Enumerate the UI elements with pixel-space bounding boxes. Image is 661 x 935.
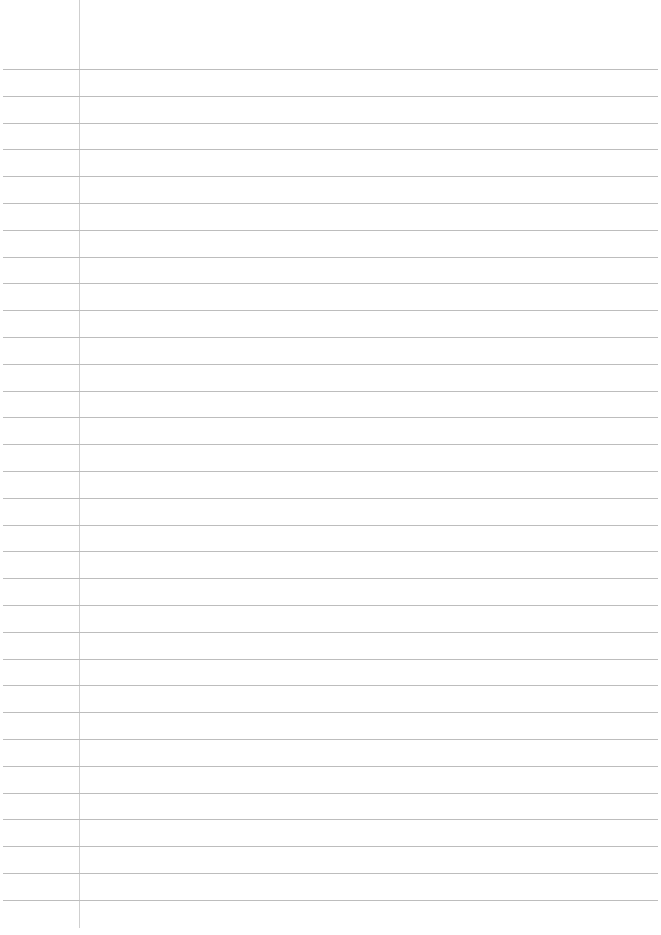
- ruled-line: [3, 69, 658, 70]
- ruled-line: [3, 149, 658, 150]
- ruled-line: [3, 685, 658, 686]
- ruled-line: [3, 283, 658, 284]
- ruled-line: [3, 337, 658, 338]
- ruled-line: [3, 257, 658, 258]
- ruled-line: [3, 605, 658, 606]
- ruled-line: [3, 551, 658, 552]
- ruled-line: [3, 310, 658, 311]
- ruled-line: [3, 819, 658, 820]
- ruled-line: [3, 417, 658, 418]
- ruled-line: [3, 900, 658, 901]
- lined-paper-page: [0, 0, 661, 935]
- ruled-line: [3, 96, 658, 97]
- margin-line: [79, 0, 80, 928]
- ruled-line: [3, 659, 658, 660]
- ruled-line: [3, 873, 658, 874]
- ruled-line: [3, 444, 658, 445]
- ruled-line: [3, 498, 658, 499]
- ruled-line: [3, 793, 658, 794]
- ruled-line: [3, 712, 658, 713]
- ruled-line: [3, 525, 658, 526]
- ruled-line: [3, 364, 658, 365]
- ruled-line: [3, 391, 658, 392]
- ruled-line: [3, 123, 658, 124]
- ruled-line: [3, 176, 658, 177]
- ruled-line: [3, 471, 658, 472]
- ruled-line: [3, 203, 658, 204]
- ruled-line: [3, 230, 658, 231]
- ruled-line: [3, 632, 658, 633]
- ruled-line: [3, 739, 658, 740]
- ruled-line: [3, 766, 658, 767]
- ruled-line: [3, 578, 658, 579]
- ruled-line: [3, 846, 658, 847]
